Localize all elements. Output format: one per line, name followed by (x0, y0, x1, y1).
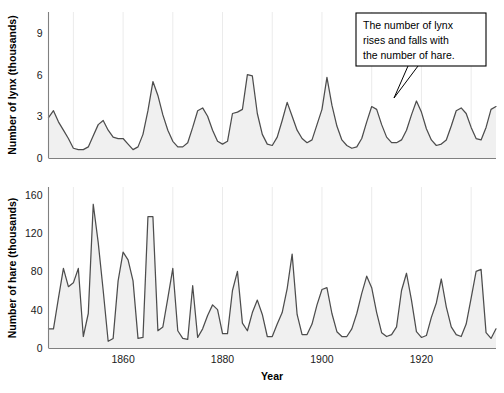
lynx-y-axis-title: Number of lynx (thousands) (6, 15, 18, 154)
x-tick-label: 1860 (111, 353, 135, 365)
y-tick-label: 0 (37, 152, 43, 164)
x-tick-label: 1900 (310, 353, 334, 365)
annotation-line-3: the number of hare. (363, 49, 455, 61)
annotation-line-2: rises and falls with (363, 34, 449, 46)
x-axis-title: Year (261, 370, 283, 382)
y-tick-label: 120 (25, 227, 43, 239)
y-tick-label: 6 (37, 69, 43, 81)
y-tick-label: 9 (37, 27, 43, 39)
hare-y-axis-title: Number of hare (thousands) (6, 198, 18, 339)
y-tick-label: 0 (37, 342, 43, 354)
x-tick-label: 1920 (410, 353, 434, 365)
x-tick-label: 1880 (211, 353, 235, 365)
lynx-y-tick-labels: 0369 (37, 27, 43, 164)
hare-chart: 04080120160 1860188019001920 (25, 187, 496, 365)
lynx-hare-figure: 0369 04080120160 1860188019001920 Number… (0, 0, 504, 393)
figure-canvas: 0369 04080120160 1860188019001920 Number… (0, 0, 504, 393)
y-tick-label: 160 (25, 189, 43, 201)
hare-y-tick-labels: 04080120160 (25, 189, 43, 354)
y-tick-label: 40 (31, 304, 43, 316)
y-tick-label: 80 (31, 265, 43, 277)
hare-x-tick-labels: 1860188019001920 (111, 353, 433, 365)
annotation-line-1: The number of lynx (363, 19, 454, 31)
y-tick-label: 3 (37, 110, 43, 122)
